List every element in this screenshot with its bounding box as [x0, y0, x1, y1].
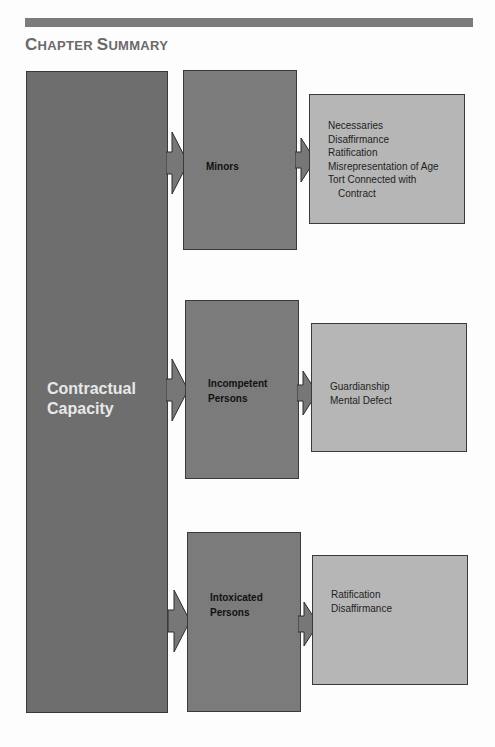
branch-node-minors: Minors	[183, 70, 297, 250]
detail-item: Guardianship	[330, 380, 392, 394]
branch-label: Incompetent Persons	[208, 376, 267, 406]
branch-label: Intoxicated Persons	[210, 590, 263, 620]
detail-list: Necessaries Disaffirmance Ratification M…	[328, 119, 439, 200]
detail-item: Tort Connected with	[328, 173, 439, 187]
detail-item: Contract	[328, 187, 439, 201]
detail-item: Disaffirmance	[328, 133, 439, 147]
detail-list: Guardianship Mental Defect	[330, 380, 392, 407]
detail-item: Misrepresentation of Age	[328, 160, 439, 174]
page-title: CHAPTER SUMMARY	[25, 35, 168, 55]
detail-item: Mental Defect	[330, 394, 392, 408]
detail-item: Disaffirmance	[331, 602, 392, 616]
detail-node-minors: Necessaries Disaffirmance Ratification M…	[309, 94, 465, 224]
branch-label: Minors	[206, 159, 239, 174]
detail-item: Ratification	[331, 588, 392, 602]
detail-list: Ratification Disaffirmance	[331, 588, 392, 615]
root-node-contractual-capacity: Contractual Capacity	[26, 71, 168, 713]
detail-node-incompetent-persons: Guardianship Mental Defect	[311, 323, 467, 452]
detail-item: Ratification	[328, 146, 439, 160]
top-rule-bar	[25, 18, 473, 27]
branch-node-intoxicated-persons: Intoxicated Persons	[187, 532, 301, 712]
detail-node-intoxicated-persons: Ratification Disaffirmance	[312, 555, 468, 685]
branch-node-incompetent-persons: Incompetent Persons	[185, 300, 299, 479]
detail-item: Necessaries	[328, 119, 439, 133]
root-node-label: Contractual Capacity	[47, 379, 136, 419]
